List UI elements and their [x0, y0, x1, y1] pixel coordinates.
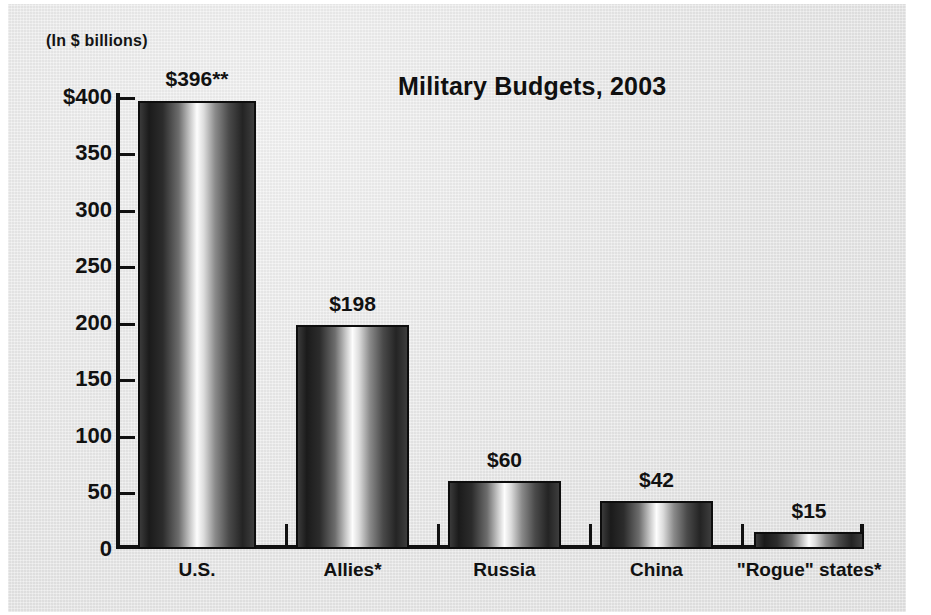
y-tick-400: [120, 97, 135, 100]
y-tick-50: [120, 492, 135, 495]
y-label-100: 100: [24, 425, 112, 447]
bar-value-russia: $60: [436, 449, 573, 470]
y-tick-100: [120, 436, 135, 439]
chart-figure: (In $ billions) Military Budgets, 2003 $…: [0, 0, 931, 615]
y-label-200: 200: [24, 312, 112, 334]
y-label-50: 50: [24, 481, 112, 503]
category-label-allies: Allies*: [284, 560, 421, 579]
y-label-0: 0: [24, 538, 112, 560]
y-label-400: $400: [24, 86, 112, 108]
y-tick-200: [120, 323, 135, 326]
x-tick-4: [741, 524, 744, 545]
category-label-us: U.S.: [126, 560, 268, 579]
y-label-350: 350: [24, 142, 112, 164]
y-label-300: 300: [24, 199, 112, 221]
bar-value-rogue-states: $15: [742, 500, 876, 521]
bar-value-allies: $198: [284, 293, 421, 314]
bar-russia[interactable]: [448, 481, 561, 549]
y-tick-250: [120, 266, 135, 269]
x-tick-3: [589, 524, 592, 545]
category-label-russia: Russia: [436, 560, 573, 579]
scanned-page: (In $ billions) Military Budgets, 2003 $…: [8, 4, 906, 612]
y-tick-350: [120, 153, 135, 156]
y-label-150: 150: [24, 368, 112, 390]
y-tick-300: [120, 210, 135, 213]
bar-allies[interactable]: [296, 325, 409, 549]
bar-value-us: $396**: [126, 68, 268, 89]
bar-china[interactable]: [600, 501, 713, 549]
bar-value-china: $42: [588, 469, 725, 490]
y-axis-line: [116, 93, 120, 549]
bar-us[interactable]: [138, 101, 256, 549]
bar-rogue-states[interactable]: [754, 532, 864, 549]
x-tick-1: [285, 524, 288, 545]
x-tick-2: [437, 524, 440, 545]
category-label-rogue-states: "Rogue" states*: [730, 560, 888, 579]
category-label-china: China: [588, 560, 725, 579]
y-tick-150: [120, 379, 135, 382]
y-label-250: 250: [24, 255, 112, 277]
y-axis-labels: $400 350 300 250 200 150 100 50 0: [20, 4, 112, 612]
plot-area: $400 350 300 250 200 150 100 50 0 $3: [8, 4, 906, 612]
